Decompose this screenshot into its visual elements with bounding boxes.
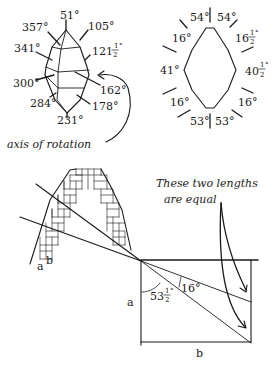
label-284: 284° — [30, 97, 57, 110]
label-51: 51° — [60, 9, 80, 22]
stepped-grid-diagram: a b 53 1 2 ° 16° a b These two lengths a… — [20, 169, 258, 360]
svg-text:°: ° — [119, 42, 123, 50]
svg-text:1: 1 — [260, 61, 264, 69]
svg-text:1: 1 — [114, 42, 118, 50]
label-121-half: 121 1 2 ° — [92, 42, 123, 59]
left-edge-curve — [30, 169, 76, 264]
svg-text:2: 2 — [113, 51, 117, 59]
label-231: 231° — [57, 114, 84, 127]
label-300: 300° — [13, 77, 40, 90]
label-357: 357° — [22, 21, 49, 34]
label-16-upper-left: 16° — [172, 32, 192, 45]
svg-text:°: ° — [255, 29, 259, 37]
grid-cells — [40, 169, 125, 259]
label-40-half: 40 1 2 ° — [245, 61, 269, 79]
caption-axis-of-rotation: axis of rotation — [7, 138, 91, 151]
svg-text:40: 40 — [245, 65, 259, 78]
label-53-left: 53° — [190, 115, 210, 128]
svg-text:1: 1 — [250, 29, 254, 37]
svg-text:121: 121 — [92, 45, 113, 58]
grid-label-a: a — [37, 260, 44, 273]
grid-label-b: b — [46, 254, 53, 267]
crystal-right: 54° 54° 16° 16 1 2 ° 41° 40 1 2 ° 16° 16… — [160, 8, 269, 128]
crystal-left: 51° 357° 105° 341° 121 1 2 ° 300° 162° 2… — [7, 9, 130, 151]
label-54-left: 54° — [190, 11, 210, 24]
diagram-canvas: 51° 357° 105° 341° 121 1 2 ° 300° 162° 2… — [0, 0, 273, 367]
side-label-b: b — [196, 347, 203, 360]
label-53-right: 53° — [215, 115, 235, 128]
angle-label-16: 16° — [181, 282, 201, 295]
arrow-lower — [220, 203, 245, 327]
svg-text:°: ° — [170, 287, 174, 295]
label-178: 178° — [92, 100, 119, 113]
label-341: 341° — [14, 42, 41, 55]
label-16-lower-right: 16° — [238, 96, 258, 109]
label-54-right: 54° — [217, 11, 237, 24]
svg-text:53: 53 — [150, 290, 164, 303]
side-label-a: a — [127, 296, 134, 309]
note-line-1: These two lengths — [156, 177, 258, 190]
label-16-half: 16 1 2 ° — [235, 29, 259, 46]
svg-text:2: 2 — [165, 296, 169, 304]
svg-text:2: 2 — [250, 38, 254, 46]
label-41: 41° — [160, 64, 180, 77]
angle-label-53-half: 53 1 2 ° — [150, 287, 174, 304]
svg-text:2: 2 — [260, 71, 264, 79]
note-line-2: are equal — [164, 193, 217, 206]
svg-text:16: 16 — [235, 32, 249, 45]
label-105: 105° — [88, 20, 115, 33]
arrow-upper — [221, 203, 246, 290]
svg-text:°: ° — [265, 61, 269, 69]
label-16-lower-left: 16° — [170, 96, 190, 109]
label-162: 162° — [100, 84, 127, 97]
svg-text:1: 1 — [165, 287, 169, 295]
crystal-right-outline — [184, 28, 236, 108]
